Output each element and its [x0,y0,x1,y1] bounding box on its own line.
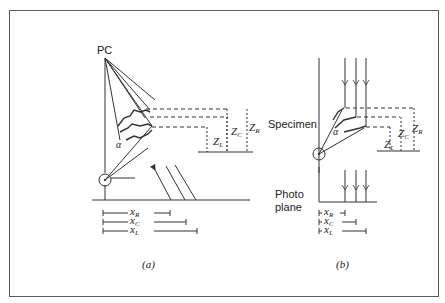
label-alpha-b: α [333,126,339,137]
label-plane: plane [275,201,302,213]
label-zl-a: ZL [213,135,223,149]
label-zc-b: ZC [398,127,409,141]
label-zc-a: ZC [231,125,242,139]
label-photo: Photo [275,188,304,200]
label-zr-b: ZR [412,122,423,136]
label-alpha-a: α [116,139,122,150]
label-zl-b: ZL [384,138,394,152]
label-zr-a: ZR [249,121,260,135]
caption-b: (b) [336,258,349,271]
label-specimen: Specimen [268,118,317,130]
caption-a: (a) [142,258,155,271]
label-pc: PC [97,44,112,56]
diagram: PC α ZL ZC ZR xR xC xL (a) Specimen Phot… [0,0,445,303]
